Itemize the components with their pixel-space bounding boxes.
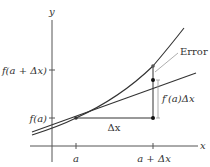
point-corner: [151, 116, 155, 120]
point-curve: [151, 64, 155, 68]
y-tick-label-f-a: f(a): [29, 113, 48, 124]
x-tick-label-a: a: [73, 153, 79, 164]
run-label: Δx: [108, 122, 121, 133]
error-leader-line: [155, 53, 178, 72]
y-tick-label-f-a-dx: f(a + Δx): [1, 65, 47, 76]
point-a-fa: [74, 116, 78, 120]
point-tangent: [151, 78, 155, 82]
diagram-canvas: y x f(a + Δx) f(a) a a + Δx Error Δx f′(…: [0, 0, 210, 167]
rise-label: f′(a)Δx: [161, 93, 195, 104]
x-axis-label: x: [200, 140, 206, 151]
function-curve: [32, 28, 184, 135]
x-tick-label-a-dx: a + Δx: [137, 153, 171, 164]
error-label: Error: [180, 46, 208, 57]
y-axis-label: y: [48, 6, 55, 17]
